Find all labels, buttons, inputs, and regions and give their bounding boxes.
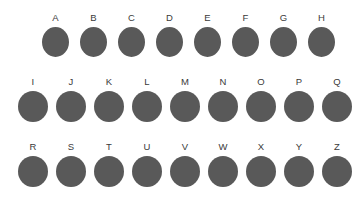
circle-icon[interactable] bbox=[194, 27, 221, 57]
dot-label-k: K bbox=[106, 76, 113, 87]
dot-cell-u[interactable]: U bbox=[132, 141, 162, 187]
circle-icon[interactable] bbox=[170, 91, 200, 122]
circle-icon[interactable] bbox=[132, 156, 162, 187]
dot-cell-i[interactable]: I bbox=[18, 76, 48, 122]
dot-row-3: R S T U V W X Y bbox=[18, 141, 352, 187]
dot-cell-m[interactable]: M bbox=[170, 76, 200, 122]
dot-cell-r[interactable]: R bbox=[18, 141, 48, 187]
dot-label-y: Y bbox=[296, 141, 303, 152]
circle-icon[interactable] bbox=[156, 27, 183, 57]
dot-cell-w[interactable]: W bbox=[208, 141, 238, 187]
circle-icon[interactable] bbox=[208, 156, 238, 187]
dot-label-a: A bbox=[52, 12, 59, 23]
circle-icon[interactable] bbox=[246, 156, 276, 187]
dot-label-q: Q bbox=[333, 76, 341, 87]
alphabet-dot-grid: A B C D E F G H bbox=[0, 0, 359, 207]
circle-icon[interactable] bbox=[170, 156, 200, 187]
dot-label-c: C bbox=[128, 12, 135, 23]
dot-label-n: N bbox=[219, 76, 226, 87]
circle-icon[interactable] bbox=[94, 91, 124, 122]
dot-label-s: S bbox=[68, 141, 75, 152]
dot-cell-s[interactable]: S bbox=[56, 141, 86, 187]
circle-icon[interactable] bbox=[56, 91, 86, 122]
dot-cell-j[interactable]: J bbox=[56, 76, 86, 122]
dot-label-z: Z bbox=[334, 141, 340, 152]
dot-cell-k[interactable]: K bbox=[94, 76, 124, 122]
dot-cell-n[interactable]: N bbox=[208, 76, 238, 122]
dot-row-2: I J K L M N O P bbox=[18, 76, 352, 122]
circle-icon[interactable] bbox=[42, 27, 69, 57]
dot-label-m: M bbox=[181, 76, 189, 87]
dot-label-w: W bbox=[218, 141, 227, 152]
circle-icon[interactable] bbox=[18, 156, 48, 187]
dot-cell-y[interactable]: Y bbox=[284, 141, 314, 187]
circle-icon[interactable] bbox=[284, 156, 314, 187]
dot-label-x: X bbox=[258, 141, 265, 152]
dot-cell-v[interactable]: V bbox=[170, 141, 200, 187]
dot-label-e: E bbox=[204, 12, 211, 23]
dot-cell-b[interactable]: B bbox=[80, 12, 107, 57]
dot-cell-e[interactable]: E bbox=[194, 12, 221, 57]
dot-cell-f[interactable]: F bbox=[232, 12, 259, 57]
dot-label-j: J bbox=[69, 76, 74, 87]
dot-cell-h[interactable]: H bbox=[308, 12, 335, 57]
circle-icon[interactable] bbox=[322, 91, 352, 122]
dot-label-r: R bbox=[29, 141, 36, 152]
dot-label-u: U bbox=[143, 141, 150, 152]
dot-label-f: F bbox=[242, 12, 248, 23]
circle-icon[interactable] bbox=[270, 27, 297, 57]
circle-icon[interactable] bbox=[94, 156, 124, 187]
dot-cell-d[interactable]: D bbox=[156, 12, 183, 57]
dot-label-t: T bbox=[106, 141, 112, 152]
circle-icon[interactable] bbox=[232, 27, 259, 57]
dot-cell-g[interactable]: G bbox=[270, 12, 297, 57]
dot-row-1: A B C D E F G H bbox=[42, 12, 335, 57]
dot-cell-l[interactable]: L bbox=[132, 76, 162, 122]
dot-label-b: B bbox=[90, 12, 97, 23]
dot-cell-z[interactable]: Z bbox=[322, 141, 352, 187]
circle-icon[interactable] bbox=[118, 27, 145, 57]
dot-cell-c[interactable]: C bbox=[118, 12, 145, 57]
circle-icon[interactable] bbox=[246, 91, 276, 122]
circle-icon[interactable] bbox=[18, 91, 48, 122]
circle-icon[interactable] bbox=[56, 156, 86, 187]
dot-label-i: I bbox=[32, 76, 35, 87]
circle-icon[interactable] bbox=[322, 156, 352, 187]
dot-cell-x[interactable]: X bbox=[246, 141, 276, 187]
dot-label-o: O bbox=[257, 76, 265, 87]
dot-label-v: V bbox=[182, 141, 189, 152]
dot-label-h: H bbox=[318, 12, 325, 23]
circle-icon[interactable] bbox=[132, 91, 162, 122]
circle-icon[interactable] bbox=[284, 91, 314, 122]
dot-cell-o[interactable]: O bbox=[246, 76, 276, 122]
dot-label-g: G bbox=[280, 12, 288, 23]
dot-cell-t[interactable]: T bbox=[94, 141, 124, 187]
dot-label-d: D bbox=[166, 12, 173, 23]
dot-cell-q[interactable]: Q bbox=[322, 76, 352, 122]
dot-cell-p[interactable]: P bbox=[284, 76, 314, 122]
dot-cell-a[interactable]: A bbox=[42, 12, 69, 57]
circle-icon[interactable] bbox=[208, 91, 238, 122]
circle-icon[interactable] bbox=[308, 27, 335, 57]
circle-icon[interactable] bbox=[80, 27, 107, 57]
dot-label-p: P bbox=[296, 76, 303, 87]
dot-label-l: L bbox=[144, 76, 149, 87]
